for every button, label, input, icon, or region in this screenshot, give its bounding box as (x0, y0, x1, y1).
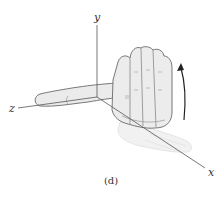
figure-caption: (d) (0, 175, 222, 186)
right-hand-rule-figure: y z x (d) (0, 0, 222, 199)
y-axis-label: y (94, 12, 100, 23)
z-axis-label: z (9, 103, 15, 114)
curled-fingers (112, 47, 172, 129)
rotation-arrow-icon (177, 63, 185, 120)
diagram-canvas (0, 0, 222, 199)
